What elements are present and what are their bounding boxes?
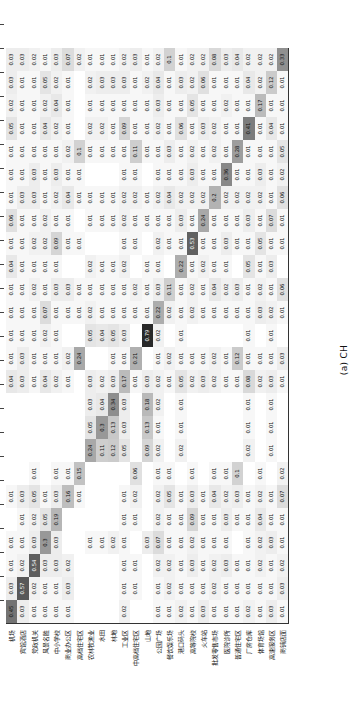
matrix-row: 0.030.010.010.010.010.010.030.010.010.01…: [198, 48, 209, 623]
matrix-cell: 0.01: [153, 163, 164, 186]
matrix-cell: 0.34: [108, 393, 119, 416]
matrix-cell: 0.02: [153, 554, 164, 577]
matrix-cell: 0.11: [130, 140, 141, 163]
matrix-cell: [255, 439, 266, 462]
matrix-cell: 0.03: [29, 163, 40, 186]
matrix-cell: 0.02: [40, 232, 51, 255]
matrix-cell: 0.02: [29, 577, 40, 600]
matrix-cell: [255, 416, 266, 439]
matrix-cell: 0.04: [243, 71, 254, 94]
matrix-cell: [198, 439, 209, 462]
matrix-cell: [96, 577, 107, 600]
matrix-cell: [96, 232, 107, 255]
matrix-cell: 0.01: [62, 600, 73, 623]
matrix-cell: 0.01: [119, 140, 130, 163]
matrix-cell: [142, 347, 153, 370]
matrix-row: 0.010.010.020.070.020.020.010.020.010.02…: [153, 48, 164, 623]
x-axis-tick: [0, 216, 4, 240]
matrix-cell: 0.01: [277, 94, 288, 117]
matrix-cell: 0.02: [119, 255, 130, 278]
matrix-cell: 0.01: [119, 485, 130, 508]
matrix-cell: [187, 416, 198, 439]
matrix-cell: [187, 324, 198, 347]
matrix-cell: 0.01: [40, 255, 51, 278]
matrix-cell: [108, 232, 119, 255]
matrix-cell: [85, 554, 96, 577]
matrix-cell: 0.01: [175, 393, 186, 416]
matrix-cell: 0.03: [187, 485, 198, 508]
matrix-cell: [142, 600, 153, 623]
y-axis-label: 山地: [142, 626, 153, 720]
matrix-row: 0.010.020.540.030.020.050.010.010.010.01…: [29, 48, 40, 623]
matrix-cell: 0.01: [209, 163, 220, 186]
matrix-cell: 0.01: [51, 324, 62, 347]
matrix-cell: 0.01: [96, 209, 107, 232]
y-axis-label: 中小学校: [51, 626, 62, 720]
matrix-cell: [221, 324, 232, 347]
matrix-cell: 0.01: [198, 485, 209, 508]
matrix-cell: 0.01: [243, 416, 254, 439]
matrix-cell: 0.03: [266, 600, 277, 623]
matrix-cell: 0.02: [29, 508, 40, 531]
matrix-cell: 0.02: [62, 554, 73, 577]
matrix-cell: 0.07: [266, 209, 277, 232]
matrix-cell: 0.01: [221, 71, 232, 94]
matrix-cell: 0.01: [255, 462, 266, 485]
matrix-cell: 0.02: [232, 186, 243, 209]
matrix-cell: 0.03: [255, 163, 266, 186]
x-axis-tick: [0, 288, 4, 312]
matrix-cell: 0.01: [142, 94, 153, 117]
matrix-cell: [142, 462, 153, 485]
matrix-cell: [29, 393, 40, 416]
matrix-cell: 0.03: [175, 71, 186, 94]
matrix-cell: 0.01: [153, 347, 164, 370]
matrix-cell: 0.01: [164, 531, 175, 554]
matrix-cell: 0.01: [164, 163, 175, 186]
matrix-cell: 0.02: [209, 140, 220, 163]
x-axis-ticks: [0, 24, 4, 624]
matrix-cell: 0.01: [29, 255, 40, 278]
matrix-cell: 0.01: [232, 209, 243, 232]
matrix-cell: 0.02: [85, 117, 96, 140]
y-axis-label: 宾馆酒店: [17, 626, 28, 720]
matrix-cell: 0.01: [142, 48, 153, 71]
matrix-cell: 0.01: [74, 301, 85, 324]
matrix-cell: 0.01: [119, 531, 130, 554]
matrix-cell: 0.01: [255, 209, 266, 232]
matrix-cell: 0.05: [85, 416, 96, 439]
matrix-cell: 0.01: [17, 117, 28, 140]
matrix-cell: 0.01: [108, 301, 119, 324]
matrix-cell: 0.01: [209, 462, 220, 485]
matrix-cell: 0.01: [243, 301, 254, 324]
matrix-row: 0.030.570.020.010.010.030.030.030.010.01…: [17, 48, 28, 623]
matrix-cell: 0.08: [209, 48, 220, 71]
matrix-cell: 0.05: [108, 324, 119, 347]
matrix-cell: 0.01: [221, 577, 232, 600]
matrix-cell: 0.06: [198, 71, 209, 94]
x-axis-tick: [0, 312, 4, 336]
matrix-cell: 0.01: [85, 209, 96, 232]
matrix-cell: 0.17: [255, 94, 266, 117]
matrix-cell: 0.01: [277, 232, 288, 255]
matrix-cell: 0.03: [198, 117, 209, 140]
matrix-row: 0.010.010.030.30.050.010.040.010.020.070…: [40, 48, 51, 623]
matrix-cell: [198, 416, 209, 439]
matrix-cell: 0.01: [119, 508, 130, 531]
matrix-cell: 0.01: [142, 301, 153, 324]
matrix-cell: 0.02: [266, 48, 277, 71]
matrix-cell: [164, 416, 175, 439]
matrix-cell: [277, 416, 288, 439]
matrix-cell: 0.01: [40, 163, 51, 186]
matrix-cell: [85, 163, 96, 186]
matrix-cell: 0.02: [187, 48, 198, 71]
matrix-cell: 0.01: [175, 278, 186, 301]
matrix-cell: 0.03: [187, 163, 198, 186]
matrix-cell: [209, 393, 220, 416]
matrix-cell: 0.03: [17, 48, 28, 71]
matrix-cell: 0.04: [96, 324, 107, 347]
matrix-cell: 0.02: [29, 48, 40, 71]
matrix-cell: 0.03: [51, 554, 62, 577]
matrix-cell: 0.01: [232, 577, 243, 600]
matrix-row: 0.010.010.020.020.040.020.010.020.010.03…: [255, 48, 266, 623]
matrix-cell: 0.02: [198, 48, 209, 71]
